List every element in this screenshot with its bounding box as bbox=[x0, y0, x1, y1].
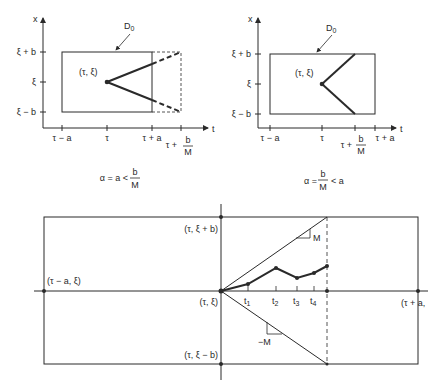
svg-text:τ +: τ + bbox=[166, 140, 177, 150]
label-bottom: (τ, ξ − b) bbox=[184, 350, 218, 360]
x-tick-label: τ + a bbox=[376, 133, 395, 143]
x-axis-label: x bbox=[248, 14, 253, 24]
cone-upper-dashed bbox=[152, 52, 181, 64]
point-label: (τ, ξ) bbox=[295, 68, 314, 78]
svg-text:α = a <: α = a < bbox=[100, 173, 128, 183]
y-tick-label: ξ − b bbox=[17, 107, 36, 117]
t-tick-label: t3 bbox=[293, 296, 300, 307]
top-left-diagram: x t D0 ξ + b ξ ξ − b τ − a τ τ + a τ + b bbox=[17, 14, 215, 190]
cone-upper bbox=[107, 64, 152, 82]
y-tick-label: ξ − b bbox=[232, 109, 251, 119]
svg-text:M: M bbox=[184, 147, 192, 157]
caption-right: α = b M < a bbox=[304, 169, 344, 192]
bottom-diagram: M −M (τ, ξ + b) (τ − a, ξ) (τ, ξ) (τ, ξ … bbox=[34, 204, 428, 380]
top-right-diagram: x t D0 ξ + b ξ ξ − b τ − a τ τ + a τ + b… bbox=[232, 14, 403, 192]
center-point bbox=[320, 82, 325, 87]
x-tick-fraction: τ + b M bbox=[341, 134, 366, 156]
euler-polygon bbox=[221, 266, 327, 291]
slope-label-upper: M bbox=[313, 233, 321, 243]
t-tick-label: t2 bbox=[272, 296, 279, 307]
svg-text:b: b bbox=[132, 167, 137, 177]
cone-lower bbox=[107, 82, 152, 100]
x-tick-label: τ + a bbox=[143, 133, 162, 143]
y-tick-label: ξ + b bbox=[17, 47, 36, 57]
dashed-extension bbox=[152, 52, 181, 112]
t-tick-label: t1 bbox=[244, 296, 251, 307]
caption-left: α = a < b M bbox=[100, 167, 140, 190]
cone-lower-dashed bbox=[152, 100, 181, 112]
diagram-canvas: x t D0 ξ + b ξ ξ − b τ − a τ τ + a τ + b bbox=[0, 0, 431, 389]
svg-text:M: M bbox=[131, 180, 139, 190]
x-tick-fraction: τ + b M bbox=[166, 135, 193, 157]
svg-text:M: M bbox=[357, 146, 365, 156]
x-tick-label: τ bbox=[320, 133, 324, 143]
domain-pointer-arrow bbox=[116, 34, 130, 50]
label-right: (τ + a, bbox=[401, 298, 425, 308]
t-axis-label: t bbox=[212, 124, 215, 134]
point-label: (τ, ξ) bbox=[79, 67, 98, 77]
y-tick-label: ξ bbox=[247, 79, 251, 89]
svg-text:b: b bbox=[185, 135, 190, 145]
svg-text:b: b bbox=[358, 134, 363, 144]
svg-text:< a: < a bbox=[331, 176, 344, 186]
x-tick-label: τ bbox=[105, 133, 109, 143]
label-top: (τ, ξ + b) bbox=[184, 224, 218, 234]
domain-pointer-arrow bbox=[317, 35, 332, 52]
x-tick-label: τ − a bbox=[53, 133, 72, 143]
svg-text:M: M bbox=[319, 182, 327, 192]
slope-label-lower: −M bbox=[258, 337, 271, 347]
label-center: (τ, ξ) bbox=[199, 297, 218, 307]
svg-text:τ +: τ + bbox=[341, 140, 352, 150]
x-axis-label: x bbox=[33, 14, 38, 24]
t-axis-label: t bbox=[400, 124, 403, 134]
cone-lower bbox=[322, 84, 355, 114]
y-tick-label: ξ + b bbox=[232, 49, 251, 59]
y-tick-label: ξ bbox=[32, 77, 36, 87]
cone-upper bbox=[322, 54, 355, 84]
center-point bbox=[219, 289, 224, 294]
svg-text:b: b bbox=[320, 169, 325, 179]
domain-label: D0 bbox=[124, 21, 135, 32]
center-point bbox=[105, 80, 110, 85]
domain-label: D0 bbox=[326, 23, 337, 34]
x-tick-label: τ − a bbox=[261, 133, 280, 143]
t-tick-label: t4 bbox=[310, 296, 317, 307]
label-left: (τ − a, ξ) bbox=[47, 276, 81, 286]
cone-upper bbox=[221, 217, 327, 291]
svg-text:α =: α = bbox=[304, 176, 317, 186]
